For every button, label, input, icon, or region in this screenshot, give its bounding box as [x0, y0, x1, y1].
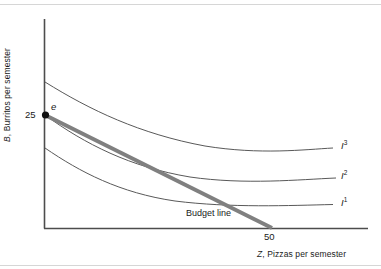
curve-label-i3: I3 [341, 140, 347, 151]
curve-label-i2-sup: 2 [344, 169, 348, 176]
x-axis-tick-label-50: 50 [264, 231, 275, 242]
y-axis-tick-label-25: 25 [25, 109, 36, 120]
indifference-curve-i2 [45, 115, 336, 181]
curve-label-i3-sup: 3 [344, 139, 348, 146]
curve-label-i1-sup: 1 [344, 196, 348, 203]
curve-label-i2: I2 [341, 170, 347, 181]
budget-line-label: Budget line [186, 208, 231, 218]
point-e-label: e [51, 101, 56, 112]
curve-label-i1: I1 [341, 197, 347, 208]
y-axis-description: , Burritos per semester [2, 48, 12, 136]
figure-container: B, Burritos per semester Z, Pizzas per s… [0, 0, 381, 269]
y-axis-title: B, Burritos per semester [0, 128, 120, 142]
point-e-marker [42, 111, 49, 118]
y-axis-variable: B [2, 136, 12, 142]
x-axis-description: , Pizzas per semester [262, 249, 346, 259]
x-axis-title: Z, Pizzas per semester [257, 249, 346, 259]
